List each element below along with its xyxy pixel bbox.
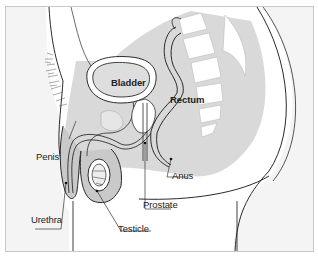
label-anus: Anus bbox=[172, 170, 193, 181]
label-penis: Penis bbox=[36, 151, 59, 162]
label-bladder: Bladder bbox=[111, 77, 146, 88]
label-testicle: Testicle bbox=[118, 223, 149, 234]
label-urethra: Urethra bbox=[31, 214, 62, 225]
label-prostate: Prostate bbox=[143, 199, 178, 210]
label-rectum: Rectum bbox=[170, 94, 204, 105]
